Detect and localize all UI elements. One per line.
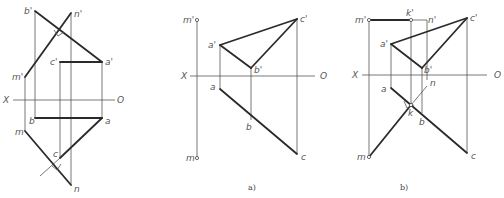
label-c-prime: c' [300, 14, 307, 24]
label-c: c [53, 149, 58, 159]
label-m-prime: m' [355, 15, 366, 25]
label-c: c [471, 151, 476, 161]
line-a-prime-b-prime [220, 45, 251, 68]
panel-given: X O b' n' a' c' m' b a m c n [2, 6, 124, 194]
axis-o-label: O [494, 70, 501, 80]
axis-o-label: O [117, 95, 124, 105]
label-b: b [419, 117, 425, 127]
label-a-prime: a' [208, 40, 216, 50]
point-m-prime [195, 18, 198, 21]
point-k-prime [409, 18, 412, 21]
orthographic-projection-figure: X O b' n' a' c' m' b a m c n X O [0, 0, 504, 198]
point-m [367, 155, 370, 158]
label-k: k [408, 108, 414, 118]
panel-b: X O m' k' n' c' a' b' a n k b [351, 8, 501, 192]
line-k-n [411, 86, 427, 105]
label-n: n [430, 78, 436, 88]
line-m-k [369, 105, 411, 157]
label-m: m [186, 153, 195, 163]
label-m-prime: m' [12, 72, 23, 82]
axis-o-label: O [320, 71, 327, 81]
panel-a: X O m' c' a' b' a b c m a) [180, 14, 327, 192]
label-b-prime: b' [254, 65, 262, 75]
label-c-prime: c' [50, 57, 57, 67]
point-m [195, 156, 198, 159]
label-b-prime: b' [24, 6, 32, 16]
label-b: b [29, 116, 35, 126]
line-m-prime-n-prime [25, 13, 71, 77]
label-b-prime: b' [424, 65, 432, 75]
point-m-prime [367, 18, 370, 21]
label-m-prime: m' [183, 15, 194, 25]
label-a: a [105, 116, 111, 126]
line-a-c [391, 88, 467, 153]
label-b: b [246, 122, 252, 132]
label-a: a [210, 82, 216, 92]
label-a-prime: a' [380, 39, 388, 49]
label-a-prime: a' [105, 57, 113, 67]
point-k [409, 103, 412, 106]
label-n-prime: n' [428, 15, 436, 25]
label-n-prime: n' [74, 9, 82, 19]
caption-b: b) [400, 183, 408, 192]
line-m-n [25, 131, 71, 185]
label-c-prime: c' [470, 13, 477, 23]
axis-x-label: X [180, 71, 188, 81]
label-a: a [381, 84, 387, 94]
axis-x-label: X [2, 95, 10, 105]
label-m: m [357, 152, 366, 162]
line-a-prime-b-prime [391, 44, 422, 68]
line-b-prime-a-prime [35, 11, 102, 62]
label-m: m [15, 127, 24, 137]
label-k-prime: k' [406, 8, 414, 18]
label-c: c [301, 152, 306, 162]
line-a-c [60, 118, 102, 158]
axis-x-label: X [351, 70, 359, 80]
caption-a: a) [248, 183, 256, 192]
label-n: n [74, 184, 80, 194]
line-a-c [220, 89, 297, 154]
